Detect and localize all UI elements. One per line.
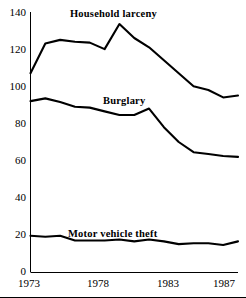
y-tick-20: 20 xyxy=(0,229,26,240)
x-tick-1973: 1973 xyxy=(18,278,40,289)
y-tick-0: 0 xyxy=(0,266,26,277)
x-tick-1983: 1983 xyxy=(157,278,179,289)
y-tick-140: 140 xyxy=(0,7,26,18)
x-tick-1987: 1987 xyxy=(213,278,235,289)
series-line-burglary xyxy=(31,98,239,157)
series-label-household-larceny: Household larceny xyxy=(70,8,157,19)
line-chart: 140 120 100 80 60 40 20 0 1973 1978 1983… xyxy=(0,0,246,298)
series-line-household-larceny xyxy=(31,24,239,97)
plot-area xyxy=(0,0,246,298)
y-tick-40: 40 xyxy=(0,192,26,203)
series-label-motor-vehicle-theft: Motor vehicle theft xyxy=(68,228,157,239)
y-tick-100: 100 xyxy=(0,81,26,92)
y-tick-80: 80 xyxy=(0,118,26,129)
series-group xyxy=(31,24,239,245)
x-tick-1978: 1978 xyxy=(87,278,109,289)
y-tick-60: 60 xyxy=(0,155,26,166)
y-tick-120: 120 xyxy=(0,44,26,55)
series-label-burglary: Burglary xyxy=(103,95,145,106)
